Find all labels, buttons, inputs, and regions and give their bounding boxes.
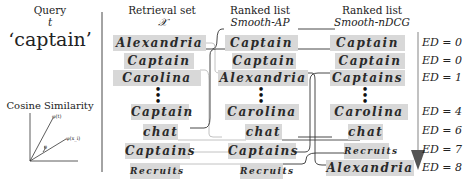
ellipsis-dots: ••• <box>256 87 266 105</box>
smooth-ap-word: Captain <box>225 35 298 51</box>
angle-label: θ <box>44 144 47 150</box>
smooth-ap-word: Recruits <box>240 163 283 179</box>
smooth-ndcg-title: Ranked list <box>322 4 422 16</box>
edit-distance: ED = 4 <box>422 105 462 118</box>
smooth-ap-subtitle: Smooth-AP <box>210 16 310 28</box>
edit-distance: ED = 0 <box>422 36 462 49</box>
smooth-ndcg-word: Alexandria <box>326 160 414 176</box>
retrieval-subtitle: 𝒳 <box>112 16 212 28</box>
ellipsis-dots: ••• <box>153 87 163 105</box>
smooth-ap-title: Ranked list <box>210 4 310 16</box>
smooth-ndcg-word: Captain <box>330 35 405 51</box>
retrieval-word: Alexandria <box>113 35 206 51</box>
retrieval-word: Recruits <box>130 163 180 179</box>
retrieval-title: Retrieval set <box>112 4 212 16</box>
retrieval-word: Captain <box>131 104 189 120</box>
edit-distance: ED = 1 <box>422 71 462 84</box>
smooth-ndcg-word: Captain <box>335 53 405 69</box>
ellipsis-dots: ••• <box>360 87 370 105</box>
smooth-ndcg-word: chat <box>348 124 383 140</box>
vector-x-label: φ(x_i) <box>66 135 80 141</box>
edit-distance: ED = 6 <box>422 124 462 137</box>
smooth-ap-word: chat <box>245 124 282 140</box>
edit-distance: ED = 7 <box>422 143 462 156</box>
retrieval-word: chat <box>143 124 178 140</box>
retrieval-word: Captains <box>125 143 190 159</box>
smooth-ndcg-word: Recruits <box>344 143 389 159</box>
smooth-ndcg-subtitle: Smooth-nDCG <box>322 16 422 28</box>
vector-t-label: φ(t) <box>52 113 61 119</box>
smooth-ap-word: Captain <box>232 53 296 69</box>
edit-distance: ED = 0 <box>422 54 462 67</box>
smooth-ap-word: Captains <box>228 143 296 159</box>
smooth-ndcg-word: Carolina <box>330 104 408 120</box>
retrieval-word: Captain <box>124 53 194 69</box>
smooth-ap-word: Carolina <box>225 104 299 120</box>
edit-distance: ED = 8 <box>422 161 462 174</box>
